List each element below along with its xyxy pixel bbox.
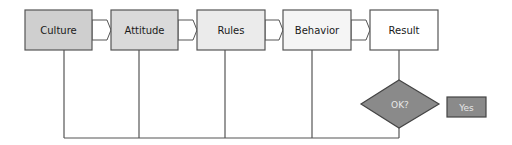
yes-outcome: Yes: [447, 97, 486, 117]
decision-label: OK?: [391, 100, 409, 110]
stage-label-rules: Rules: [218, 25, 245, 36]
stage-result: Result: [370, 10, 438, 50]
connector-arrow-3: [265, 20, 283, 40]
stage-label-attitude: Attitude: [124, 25, 164, 36]
stage-label-result: Result: [389, 25, 420, 36]
feedback-lines: [64, 50, 399, 138]
feedback-flow-diagram: Culture Attitude Rules Behavior Result O…: [0, 0, 512, 145]
decision-ok: OK?: [361, 80, 439, 128]
stage-attitude: Attitude: [111, 10, 178, 50]
connector-arrow-1: [92, 20, 111, 40]
stage-label-behavior: Behavior: [295, 25, 340, 36]
stage-rules: Rules: [197, 10, 265, 50]
connector-arrow-2: [178, 20, 197, 40]
yes-label: Yes: [458, 103, 474, 113]
stage-behavior: Behavior: [283, 10, 351, 50]
stage-culture: Culture: [25, 10, 92, 50]
connector-arrow-4: [351, 20, 370, 40]
stage-label-culture: Culture: [40, 25, 76, 36]
